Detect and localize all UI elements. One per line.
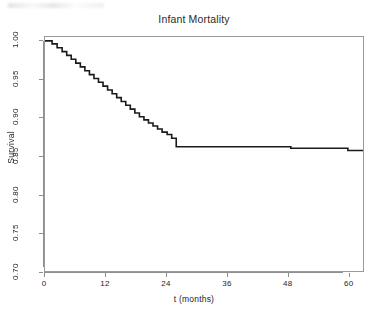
x-tick	[288, 273, 289, 277]
survival-chart-figure: Infant Mortality 0.700.750.800.850.900.9…	[0, 0, 388, 312]
y-tick-label: 0.70	[0, 266, 32, 278]
x-tick-label: 60	[334, 279, 364, 288]
x-tick	[349, 273, 350, 277]
y-tick	[39, 117, 43, 118]
survival-curve-svg	[45, 37, 363, 271]
x-tick	[166, 273, 167, 277]
survival-step-line	[45, 41, 363, 151]
y-tick	[39, 156, 43, 157]
plot-area	[44, 36, 364, 272]
x-tick	[105, 273, 106, 277]
y-tick	[39, 272, 43, 273]
y-tick	[39, 79, 43, 80]
x-tick-label: 48	[273, 279, 303, 288]
y-tick-label: 0.75	[0, 227, 32, 239]
x-tick-label: 12	[90, 279, 120, 288]
y-tick-label: 0.85	[0, 150, 32, 162]
y-tick-label: 1.00	[0, 34, 32, 46]
y-tick	[39, 40, 43, 41]
x-tick	[44, 273, 45, 277]
y-tick	[39, 195, 43, 196]
y-axis-title: Survival	[6, 131, 16, 164]
x-axis-line	[44, 272, 343, 273]
page-title: Infant Mortality	[0, 13, 388, 25]
x-tick-label: 24	[151, 279, 181, 288]
x-tick-label: 36	[212, 279, 242, 288]
y-tick-label: 0.80	[0, 189, 32, 201]
scan-artifact	[8, 3, 104, 8]
x-axis-title: t (months)	[0, 294, 388, 304]
x-tick	[227, 273, 228, 277]
x-tick-label: 0	[29, 279, 59, 288]
y-tick-label: 0.95	[0, 73, 32, 85]
y-tick-label: 0.90	[0, 111, 32, 123]
y-tick	[39, 233, 43, 234]
y-axis-line	[43, 41, 44, 267]
